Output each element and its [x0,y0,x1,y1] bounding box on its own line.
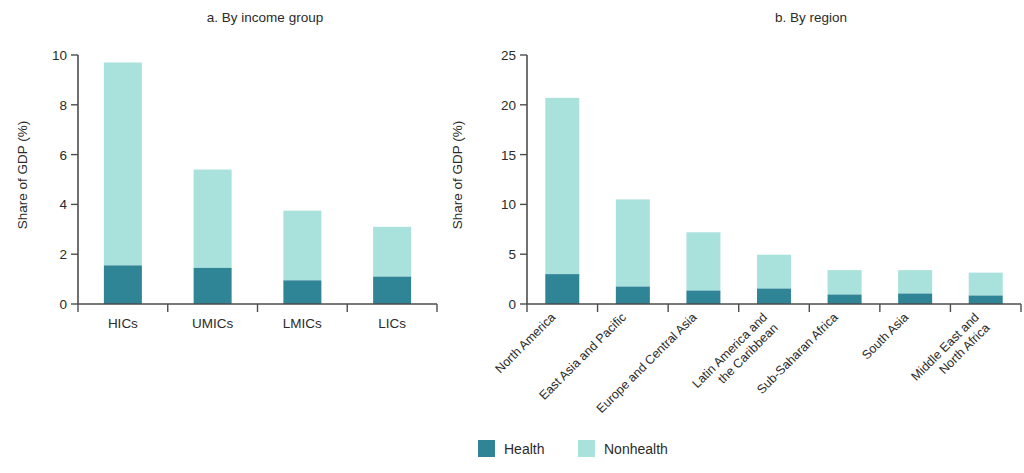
bar-segment-health [969,296,1003,304]
x-axis-category-label: South Asia [859,310,911,362]
y-tick-label: 10 [501,197,516,212]
bar-segment-nonhealth [757,255,791,289]
x-axis-category-text: South Asia [859,310,911,362]
y-tick-label: 0 [59,297,67,312]
bar-segment-nonhealth [194,170,232,268]
legend-label: Nonhealth [604,441,668,457]
y-tick-label: 8 [59,98,67,113]
bar-segment-health [616,287,650,304]
bar-segment-nonhealth [686,232,720,290]
bar-segment-nonhealth [898,270,932,293]
legend-swatch [478,440,495,457]
chart-canvas: a. By income group Share of GDP (%) 0246… [0,0,1024,473]
panel-a-x-labels: HICsUMICsLMICsLICs [108,316,406,331]
y-tick-label: 10 [52,48,67,63]
panel-a-bars [104,62,411,304]
bar-segment-health [283,280,321,304]
y-tick-label: 0 [508,297,516,312]
bar-segment-nonhealth [545,98,579,274]
panel-b-y-ticks: 0510152025 [501,48,527,312]
bar-segment-health [104,265,142,304]
y-tick-label: 2 [59,247,67,262]
bar-segment-nonhealth [616,199,650,286]
bar-segment-health [757,289,791,304]
legend-label: Health [504,441,544,457]
bar-segment-nonhealth [373,227,411,277]
y-tick-label: 5 [508,247,516,262]
x-axis-category-text: North America [493,310,559,376]
y-tick-label: 6 [59,148,67,163]
x-axis-category-label: Middle East andNorth Africa [909,310,993,394]
panel-b-x-ticks [527,304,1021,312]
x-axis-category-label: North America [493,310,559,376]
y-tick-label: 15 [501,148,516,163]
x-axis-category-label: LICs [378,316,406,331]
figure-root: a. By income group Share of GDP (%) 0246… [0,0,1024,473]
panel-a-y-axis-label: Share of GDP (%) [15,121,30,230]
panel-b-bars [545,98,1002,304]
chart-legend: HealthNonhealth [478,440,668,457]
y-tick-label: 20 [501,98,516,113]
bar-segment-nonhealth [283,211,321,281]
panel-a: a. By income group Share of GDP (%) 0246… [15,10,437,331]
bar-segment-health [828,295,862,304]
bar-segment-health [194,268,232,304]
bar-segment-health [686,291,720,304]
panel-b-y-axis-label: Share of GDP (%) [450,121,465,230]
bar-segment-nonhealth [104,62,142,265]
panel-b: b. By region Share of GDP (%) 0510152025… [450,10,1021,416]
panel-a-x-ticks [78,304,437,312]
bar-segment-health [898,294,932,304]
legend-swatch [578,440,595,457]
x-axis-category-label: UMICs [192,316,233,331]
bar-segment-health [373,277,411,304]
y-tick-label: 4 [59,197,67,212]
panel-a-title: a. By income group [207,10,323,25]
panel-a-y-ticks: 0246810 [52,48,78,312]
x-axis-category-label: LMICs [283,316,322,331]
panel-b-x-labels: North AmericaEast Asia and PacificEurope… [493,310,993,416]
bar-segment-nonhealth [828,270,862,294]
bar-segment-nonhealth [969,273,1003,296]
bar-segment-health [545,274,579,304]
panel-b-title: b. By region [775,10,847,25]
x-axis-category-label: HICs [108,316,138,331]
y-tick-label: 25 [501,48,516,63]
